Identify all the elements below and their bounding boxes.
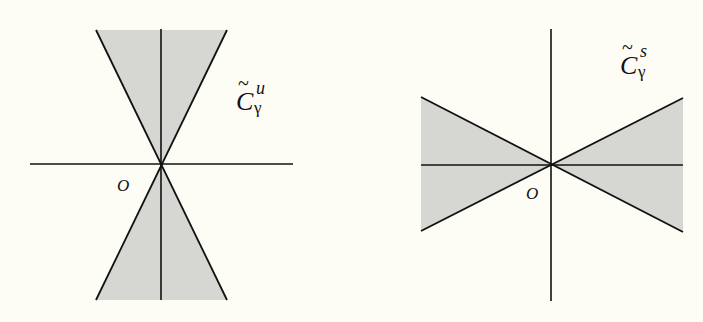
origin-label: O [526,184,538,203]
left-cone-region [421,97,551,231]
origin-label: O [117,176,129,195]
figure-canvas: O C ~ u γ O C ~ s γ [0,0,703,322]
subscript-gamma: γ [637,62,646,81]
superscript-u: u [256,78,265,98]
subscript-gamma: γ [253,98,262,117]
unstable-cone-diagram: O C ~ u γ [30,29,293,300]
tilde-mark: ~ [238,72,249,94]
superscript-s: s [640,41,647,61]
stable-cone-diagram: O C ~ s γ [421,29,683,301]
tilde-mark: ~ [622,36,633,58]
